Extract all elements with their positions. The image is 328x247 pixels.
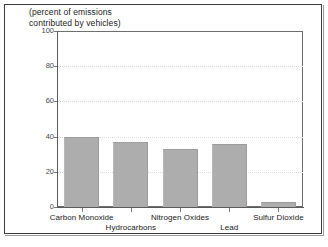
bar xyxy=(113,142,148,207)
chart-figure: (percent of emissions contributed by veh… xyxy=(0,0,328,247)
chart-caption: (percent of emissions contributed by veh… xyxy=(29,7,229,28)
y-axis-tick-label: 100 xyxy=(28,27,54,35)
gridline xyxy=(58,101,303,103)
bar xyxy=(212,144,247,207)
y-axis-tick-label-wrap: 0 xyxy=(26,203,54,211)
y-axis-tick-label: 20 xyxy=(28,168,54,176)
x-axis-tick-mark xyxy=(82,208,83,212)
y-axis-tick-mark xyxy=(54,101,57,102)
bar xyxy=(64,137,99,207)
x-axis-tick-label: Sulfur Dioxide xyxy=(218,213,328,222)
bar xyxy=(261,202,296,207)
x-axis-tick-mark xyxy=(229,208,230,212)
x-axis-tick-mark xyxy=(180,208,181,212)
y-axis-tick-mark xyxy=(54,207,57,208)
y-axis-tick-mark xyxy=(54,66,57,67)
figure-border-shadow-right xyxy=(323,5,324,236)
figure-border-shadow-bottom xyxy=(5,235,324,236)
y-axis-tick-label: 80 xyxy=(28,62,54,70)
bar xyxy=(163,149,198,207)
x-axis-tick-label: Lead xyxy=(169,223,289,232)
y-axis-tick-label-wrap: 60 xyxy=(26,97,54,105)
y-axis-tick-label: 0 xyxy=(28,203,54,211)
y-axis-tick-label-wrap: 40 xyxy=(26,133,54,141)
y-axis-tick-label-wrap: 20 xyxy=(26,168,54,176)
gridline xyxy=(58,66,303,68)
y-axis-tick-label: 40 xyxy=(28,133,54,141)
x-axis-tick-mark xyxy=(131,208,132,212)
y-axis-line xyxy=(57,31,58,208)
y-axis-tick-label-wrap: 100 xyxy=(26,27,54,35)
y-axis-tick-mark xyxy=(54,31,57,32)
y-axis-tick-label: 60 xyxy=(28,97,54,105)
x-axis-tick-mark xyxy=(278,208,279,212)
y-axis-tick-mark xyxy=(54,172,57,173)
y-axis-tick-mark xyxy=(54,137,57,138)
y-axis-tick-label-wrap: 80 xyxy=(26,62,54,70)
